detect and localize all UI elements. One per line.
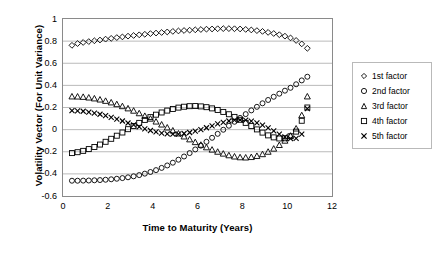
y-tick-label: 0 — [17, 125, 57, 134]
legend-item-2[interactable]: 2nd factor — [357, 83, 427, 98]
y-tick-label: -0.2 — [17, 147, 57, 156]
plot-area — [62, 18, 333, 197]
chart-legend: 1st factor2nd factor3rd factor4th factor… — [352, 62, 432, 149]
chart-figure: Volatility Vector (For Unit Variance) Ti… — [0, 0, 437, 256]
x-axis-title: Time to Maturity (Years) — [62, 222, 333, 233]
y-tick-label: 0.4 — [17, 81, 57, 90]
y-tick-label: -0.6 — [17, 192, 57, 201]
plot-canvas — [63, 19, 332, 196]
x-tick-label: 6 — [183, 202, 213, 211]
circle-marker-icon — [357, 84, 371, 98]
x-tick-label: 2 — [93, 202, 123, 211]
series-2 — [69, 74, 309, 183]
x-marker-icon — [357, 129, 371, 143]
diamond-marker-icon — [357, 69, 371, 83]
legend-item-3[interactable]: 3rd factor — [357, 98, 427, 113]
legend-item-label: 1st factor — [371, 71, 407, 81]
legend-item-label: 2nd factor — [371, 86, 410, 96]
y-tick-label: -0.4 — [17, 169, 57, 178]
series-1 — [69, 26, 310, 51]
x-tick-label: 10 — [272, 202, 302, 211]
x-tick-label: 0 — [48, 202, 78, 211]
y-tick-label: 1 — [17, 15, 57, 24]
y-tick-label: 0.8 — [17, 37, 57, 46]
x-tick-label: 4 — [138, 202, 168, 211]
legend-item-5[interactable]: 5th factor — [357, 128, 427, 143]
legend-item-1[interactable]: 1st factor — [357, 68, 427, 83]
x-tick-label: 12 — [317, 202, 347, 211]
legend-item-label: 3rd factor — [371, 101, 408, 111]
square-marker-icon — [357, 114, 371, 128]
x-tick-label: 8 — [227, 202, 257, 211]
legend-item-label: 4th factor — [371, 116, 407, 126]
legend-item-4[interactable]: 4th factor — [357, 113, 427, 128]
legend-item-label: 5th factor — [371, 131, 407, 141]
y-tick-label: 0.6 — [17, 59, 57, 68]
y-tick-label: 0.2 — [17, 103, 57, 112]
triangle-marker-icon — [357, 99, 371, 113]
